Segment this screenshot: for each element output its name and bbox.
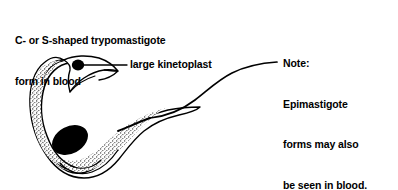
note-line-3: forms may also: [283, 138, 367, 152]
note-line-4: be seen in blood.: [283, 179, 367, 190]
title-line-1: C- or S-shaped trypomastigote: [15, 34, 166, 48]
note-caption: Note: Epimastigote forms may also be see…: [283, 30, 367, 189]
kinetoplast-callout-label: large kinetoplast: [130, 58, 212, 71]
title-line-2: form in blood: [15, 75, 166, 89]
note-line-1: Note:: [283, 57, 367, 71]
figure-canvas: C- or S-shaped trypomastigote form in bl…: [0, 0, 398, 189]
note-line-2: Epimastigote: [283, 98, 367, 112]
